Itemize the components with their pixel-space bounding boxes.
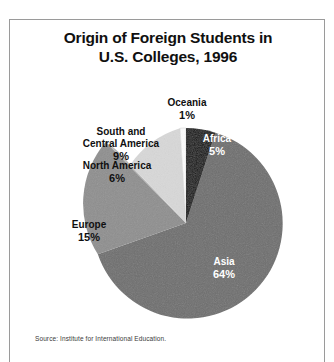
slice-label-africa-name: Africa (203, 133, 231, 144)
slice-label-scam-name-line-2: Central America (83, 138, 159, 149)
slice-label-north-america-name: North America (83, 160, 152, 171)
slice-label-north-america-percent: 6% (65, 172, 169, 184)
slice-label-asia-percent: 64% (198, 268, 250, 280)
slice-label-africa: Africa 5% (193, 133, 241, 157)
pie-chart-area: Oceania 1% South and Central America 9% … (10, 20, 325, 362)
slice-label-south-and-central-america: South and Central America 9% (57, 126, 185, 162)
slice-label-asia-name: Asia (213, 256, 234, 267)
slice-label-asia: Asia 64% (198, 256, 250, 280)
source-note: Source: Institute for International Educ… (35, 335, 166, 342)
slice-label-oceania-percent: 1% (157, 109, 217, 121)
slice-label-north-america: North America 6% (65, 160, 169, 184)
chart-figure: Origin of Foreign Students in U.S. Colle… (9, 19, 325, 362)
slice-label-europe-percent: 15% (54, 231, 124, 243)
slice-label-scam-name-line-1: South and (97, 126, 146, 137)
slice-label-europe: Europe 15% (54, 219, 124, 243)
slice-label-europe-name: Europe (72, 219, 106, 230)
slice-label-africa-percent: 5% (193, 145, 241, 157)
slice-label-oceania: Oceania 1% (157, 97, 217, 121)
slice-label-oceania-name: Oceania (168, 97, 207, 108)
pie-chart-svg (9, 19, 325, 362)
